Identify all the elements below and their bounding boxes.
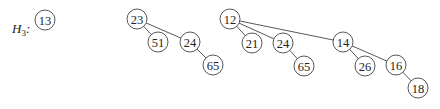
tree-node-21: 21: [242, 33, 262, 53]
node-key: 23: [131, 13, 144, 27]
node-key: 14: [337, 36, 350, 50]
node-key: 51: [152, 36, 165, 50]
node-key: 12: [224, 13, 237, 27]
edge-14-26: [350, 49, 358, 58]
tree-node-14: 14: [333, 32, 353, 52]
node-key: 65: [298, 60, 311, 74]
edge-24-65: [197, 49, 206, 58]
node-key: 13: [39, 14, 52, 28]
tree-node-26: 26: [355, 56, 375, 76]
node-key: 26: [359, 60, 372, 74]
tree-node-65: 65: [203, 55, 223, 75]
tree-node-51: 51: [148, 32, 168, 52]
tree-node-23: 23: [127, 9, 147, 29]
edge-24-65: [290, 50, 298, 58]
node-key: 21: [246, 37, 259, 51]
tree-node-18: 18: [408, 78, 428, 98]
edge-16-18: [403, 72, 411, 81]
node-key: 65: [207, 59, 220, 73]
binomial-heap-diagram: H3: 13235124651221246514261618: [0, 0, 440, 109]
tree-node-24: 24: [180, 32, 200, 52]
edge-23-51: [144, 26, 152, 34]
heap-label: H3:: [11, 21, 30, 38]
tree-node-13: 13: [35, 10, 55, 30]
node-key: 24: [277, 37, 290, 51]
tree-node-24: 24: [273, 33, 293, 53]
tree-node-65: 65: [294, 56, 314, 76]
edge-12-21: [237, 26, 245, 35]
heap-colon: :: [26, 21, 30, 36]
node-key: 16: [390, 59, 403, 73]
node-key: 18: [412, 82, 425, 96]
tree-node-12: 12: [220, 9, 240, 29]
tree-node-16: 16: [386, 55, 406, 75]
node-key: 24: [184, 36, 197, 50]
heap-name: H: [11, 21, 22, 36]
